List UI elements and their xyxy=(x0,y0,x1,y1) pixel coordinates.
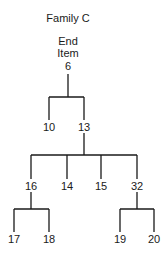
node-18: 18 xyxy=(43,233,55,245)
node-17: 17 xyxy=(8,233,20,245)
node-20: 20 xyxy=(148,233,160,245)
node-19: 19 xyxy=(114,233,126,245)
node-14: 14 xyxy=(61,180,73,192)
node-13: 13 xyxy=(78,121,90,133)
node-16: 16 xyxy=(25,180,37,192)
node-15: 15 xyxy=(95,180,107,192)
node-32: 32 xyxy=(131,180,143,192)
node-10: 10 xyxy=(43,121,55,133)
